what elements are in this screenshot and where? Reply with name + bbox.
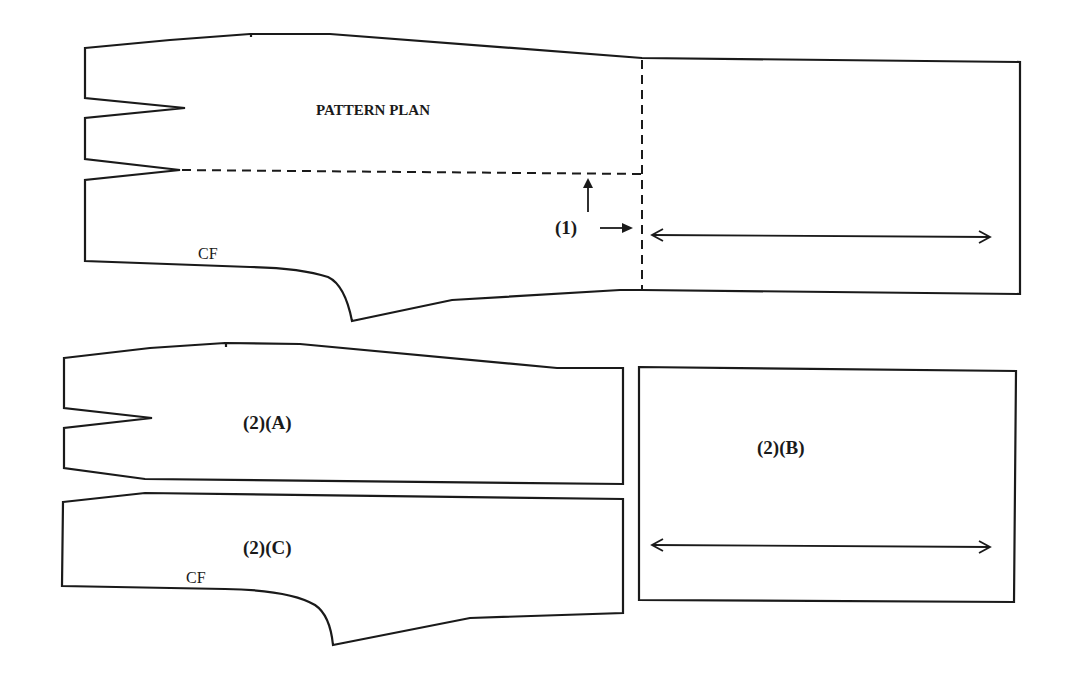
pattern-plan-left-outline [85,34,1020,321]
piece-2B: (2)(B) [639,367,1016,602]
piece-2A-outline [64,343,623,484]
grainline-double-arrow-icon [652,229,990,243]
grainline-double-arrow-icon [652,539,990,553]
pattern-plan-figure: (1) PATTERN PLAN CF [85,33,1020,321]
arrow-up-icon [583,178,593,212]
piece-2A: (2)(A) [64,342,623,484]
pattern-plan-title: PATTERN PLAN [316,102,430,118]
cf-label-bottom: CF [186,569,206,586]
pattern-diagram: (1) PATTERN PLAN CF (2)(A) (2)(C) CF (2)… [0,0,1072,676]
piece-2C-label: (2)(C) [243,537,292,559]
cf-label-top: CF [198,245,218,262]
slash-line-horizontal [182,170,641,174]
piece-2B-label: (2)(B) [757,437,804,459]
step-label-1: (1) [555,217,577,239]
arrow-right-icon [600,223,633,233]
piece-2B-outline [639,367,1016,602]
piece-2C: (2)(C) CF [62,493,623,645]
piece-2A-label: (2)(A) [243,412,292,434]
piece-2C-outline [62,493,623,645]
